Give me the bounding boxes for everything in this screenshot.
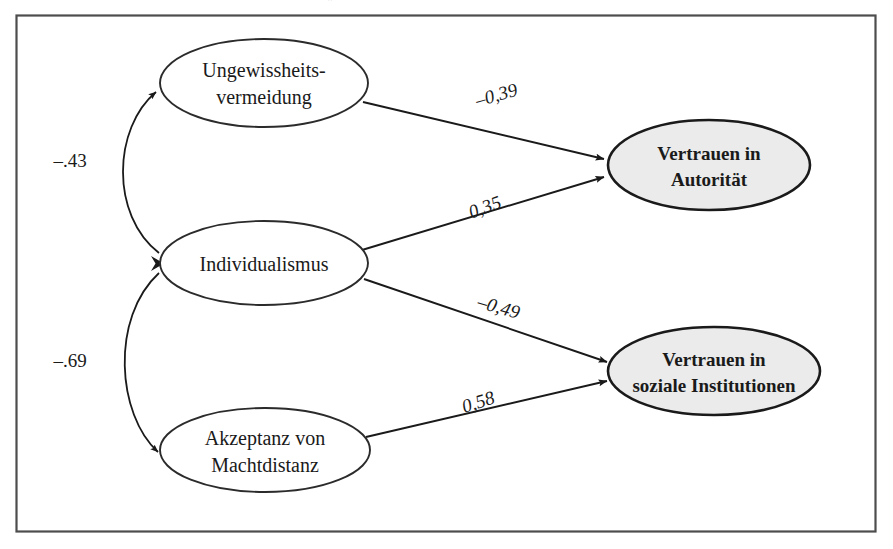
node-vertrauen-autoritaet[interactable]: Vertrauen in Autorität xyxy=(608,120,810,210)
node-ellipse xyxy=(608,120,810,210)
diagram-frame xyxy=(17,16,876,532)
page-text-artifact: ¨ xyxy=(328,0,333,11)
node-ellipse xyxy=(160,39,368,127)
node-akzeptanz-machtdistanz[interactable]: Akzeptanz von Machtdistanz xyxy=(160,408,370,492)
node-label-line1: Vertrauen in xyxy=(657,143,761,164)
diagram-canvas: ¨ Ungewissheits- vermeidung Individualis… xyxy=(0,0,893,549)
node-label-line2: soziale Institutionen xyxy=(632,375,796,396)
correlation-label-uncertainty-individualism: –.43 xyxy=(52,150,86,171)
node-label-line1: Individualismus xyxy=(200,253,329,275)
node-individualismus[interactable]: Individualismus xyxy=(160,221,368,305)
node-ellipse xyxy=(608,327,820,415)
node-label-line1: Ungewissheits- xyxy=(202,59,325,82)
node-ungewissheitsvermeidung[interactable]: Ungewissheits- vermeidung xyxy=(160,39,368,127)
node-label-line1: Akzeptanz von xyxy=(205,427,326,450)
correlation-label-individualism-powerdistance: –.69 xyxy=(52,350,86,371)
node-label-line1: Vertrauen in xyxy=(662,349,766,370)
node-label-line2: Machtdistanz xyxy=(211,454,319,476)
node-label-line2: vermeidung xyxy=(216,86,312,109)
path-diagram-figure: ¨ Ungewissheits- vermeidung Individualis… xyxy=(0,0,893,549)
node-vertrauen-soziale-institutionen[interactable]: Vertrauen in soziale Institutionen xyxy=(608,327,820,415)
node-label-line2: Autorität xyxy=(671,169,748,190)
node-ellipse xyxy=(160,408,370,492)
